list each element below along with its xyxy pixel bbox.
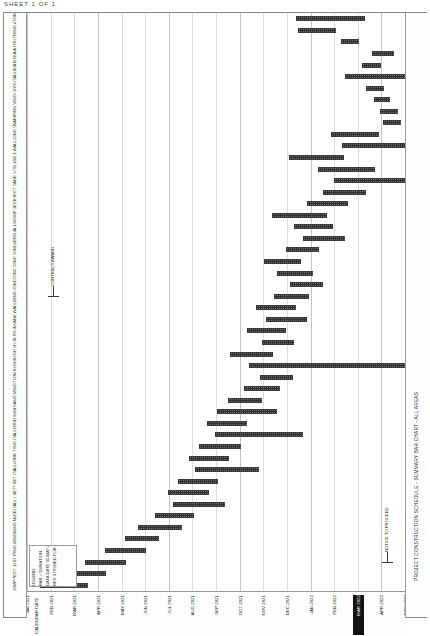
task-bar <box>294 224 333 229</box>
tick-text: NOV 2021 <box>258 595 269 616</box>
row-label: MILLWORK <box>4 453 24 464</box>
task-bar <box>383 120 402 125</box>
row-label: DEWATERING SYS <box>4 83 24 94</box>
tick-text: SEP 2021 <box>211 595 222 615</box>
task-bar <box>178 479 218 484</box>
task-bar <box>189 456 229 461</box>
row-label: LANDSCAPING <box>4 545 24 556</box>
row-label: MECH EQUIP SET <box>4 476 24 487</box>
x-tick-label[interactable]: OCT 2021 <box>235 595 246 635</box>
gridline <box>74 13 75 591</box>
x-tick-label[interactable]: MAY 2021 <box>117 595 128 635</box>
tick-text: APR 2021 <box>93 595 104 615</box>
row-label: FINAL INSPECT <box>4 568 24 579</box>
x-tick-label[interactable]: FEB 2022 <box>329 595 340 635</box>
tick-text: APR 2022 <box>376 595 387 615</box>
row-label: BLDG DRY-IN <box>4 325 24 336</box>
task-bar <box>272 213 328 218</box>
task-bar <box>277 271 312 276</box>
task-bar <box>296 16 365 21</box>
task-bar <box>298 28 337 33</box>
legend-line: BAR = DURATION <box>37 546 44 586</box>
gridline <box>240 13 241 591</box>
row-label: PILE DRIVING <box>4 94 24 105</box>
x-tick-label[interactable]: MAR 2021 <box>69 595 80 635</box>
x-tick-label[interactable]: DEC 2021 <box>282 595 293 635</box>
row-label: PLUMBING ROUGH <box>4 349 24 360</box>
row-label: PUNCH LIST <box>4 557 24 568</box>
gridline <box>98 13 99 591</box>
row-label: ELECTRICAL ROUGH <box>4 360 24 371</box>
row-label: ELEC GEAR SET <box>4 487 24 498</box>
tick-text: MAY 2021 <box>117 595 128 615</box>
row-label: LEVEL 3 CONC <box>4 256 24 267</box>
gridline <box>145 13 146 591</box>
row-label-axis: MOBILIZATIONSITE CLEARINGSURVEY & LAYOUT… <box>4 13 27 617</box>
task-bar <box>260 375 293 380</box>
task-bar <box>372 51 394 56</box>
leader-line <box>387 552 388 562</box>
tick-text: DEC 2021 <box>282 595 293 615</box>
row-label: ELEVATOR INSTALL <box>4 464 24 475</box>
x-tick-label[interactable]: APR 2021 <box>93 595 104 635</box>
x-tick-label[interactable]: AUG 2021 <box>187 595 198 635</box>
task-bar <box>323 190 366 195</box>
gridline <box>51 13 52 591</box>
gridline <box>287 13 288 591</box>
title-rail: PROJECT CONSTRUCTION SCHEDULE - SUMMARY … <box>405 13 428 617</box>
task-bar <box>85 560 126 565</box>
legend-line: LEGEND: <box>30 546 37 586</box>
gridline <box>311 13 312 591</box>
row-label: CURTAIN WALL <box>4 302 24 313</box>
annotation-text: NOTICE TO PROCEED <box>381 500 393 552</box>
task-bar <box>286 247 319 252</box>
task-bar <box>207 421 247 426</box>
tick-text: JAN 2022 <box>306 595 317 614</box>
row-label: UNDERSLAB UTIL <box>4 164 24 175</box>
row-label: ROOFING MEMBRANE <box>4 314 24 325</box>
row-label: PILE CAP FORMS <box>4 106 24 117</box>
x-tick-label[interactable]: MAR 2022 <box>353 595 364 635</box>
x-tick-label[interactable]: SEP 2021 <box>211 595 222 635</box>
x-tick-label[interactable]: JUL 2021 <box>164 595 175 635</box>
task-bar <box>342 143 405 148</box>
date-axis: CALENDAR DATE JAN 2021FEB 2021MAR 2021AP… <box>27 591 405 636</box>
annotation-callout: CONTRACT AWARD <box>47 234 59 286</box>
task-bar <box>366 86 384 91</box>
tick-text: JUL 2021 <box>164 595 175 614</box>
task-bar <box>334 178 405 183</box>
task-bar <box>138 525 182 530</box>
task-bar <box>331 132 379 137</box>
task-bar <box>249 363 405 368</box>
task-bar <box>362 63 381 68</box>
row-label: PILE CAP CONC <box>4 129 24 140</box>
tick-text: JAN 2021 <box>27 595 33 614</box>
row-label: DRYWALL FINISH <box>4 406 24 417</box>
x-tick-label[interactable]: FEB 2021 <box>46 595 57 635</box>
row-label: INTERIOR FRAMING <box>4 383 24 394</box>
leader-tick <box>382 562 393 563</box>
x-tick-label[interactable]: NOV 2021 <box>258 595 269 635</box>
leader-line <box>53 286 54 296</box>
row-label: SUBSTANTIAL COMP <box>4 580 24 591</box>
row-label: HVAC ROUGH-IN <box>4 337 24 348</box>
x-tick-label[interactable]: JAN 2021 <box>27 595 33 635</box>
task-bar <box>380 109 398 114</box>
task-bar <box>155 513 194 518</box>
row-label: ELEV CORE WALLS <box>4 221 24 232</box>
task-bar <box>274 294 309 299</box>
task-bar <box>374 97 389 102</box>
gridline <box>27 13 28 591</box>
x-tick-label[interactable]: JUN 2021 <box>140 595 151 635</box>
leader-tick <box>48 296 59 297</box>
task-bar <box>244 386 279 391</box>
x-tick-label[interactable]: JAN 2022 <box>306 595 317 635</box>
gridline <box>169 13 170 591</box>
gridline <box>334 13 335 591</box>
x-tick-label[interactable]: APR 2022 <box>376 595 387 635</box>
annotation-callout: NOTICE TO PROCEED <box>381 500 393 552</box>
task-bar <box>318 167 376 172</box>
legend-box: LEGEND:BAR = DURATIONDATA DATE 01-MAY-21… <box>29 545 77 587</box>
row-label: STAIR TOWERS <box>4 233 24 244</box>
